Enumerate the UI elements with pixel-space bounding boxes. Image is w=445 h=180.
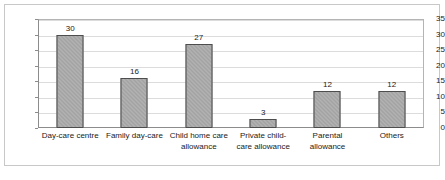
x-axis-category-label: Private child-care allowance (231, 131, 295, 152)
x-axis-category-label: Parentalallowance (295, 131, 359, 152)
bar-chart-figure: 05101520253035 30162731212 Day-care cent… (0, 0, 445, 180)
x-axis-category-label-line1: Family day-care (106, 131, 163, 140)
x-axis-category-label-line2: allowance (167, 142, 231, 153)
x-axis-category-label: Child home careallowance (167, 131, 231, 152)
x-axis-category-label-line1: Child home care (170, 131, 228, 140)
bar[interactable] (314, 91, 341, 128)
bar-slot: 27 (167, 19, 231, 128)
x-axis-category-label: Day-care centre (38, 131, 102, 142)
bar-slot: 16 (102, 19, 166, 128)
x-axis-category-label-line2: allowance (295, 142, 359, 153)
x-axis-category-label-line1: Private child- (240, 131, 286, 140)
bar-value-label: 12 (323, 80, 332, 89)
x-axis-category-label-line2: care allowance (231, 142, 295, 153)
x-axis-category-label-line1: Day-care centre (42, 131, 99, 140)
x-axis-category-label: Others (360, 131, 424, 142)
bar-value-label: 30 (66, 24, 75, 33)
bar-slot: 12 (295, 19, 359, 128)
bar-value-label: 3 (261, 108, 265, 117)
bar[interactable] (185, 44, 212, 128)
y-axis-tick-mark (35, 128, 38, 129)
x-axis-category-label: Family day-care (102, 131, 166, 142)
x-axis-labels: Day-care centreFamily day-careChild home… (38, 131, 424, 163)
bar-value-label: 16 (130, 67, 139, 76)
bar-slot: 30 (38, 19, 102, 128)
bar[interactable] (250, 119, 277, 128)
x-axis-category-label-line1: Parental (313, 131, 343, 140)
bars-layer: 30162731212 (38, 19, 424, 128)
bar[interactable] (57, 35, 84, 128)
bar[interactable] (121, 78, 148, 128)
bar-value-label: 12 (387, 80, 396, 89)
bar-slot: 3 (231, 19, 295, 128)
bar[interactable] (378, 91, 405, 128)
bar-slot: 12 (360, 19, 424, 128)
bar-value-label: 27 (194, 33, 203, 42)
x-axis-category-label-line1: Others (380, 131, 404, 140)
